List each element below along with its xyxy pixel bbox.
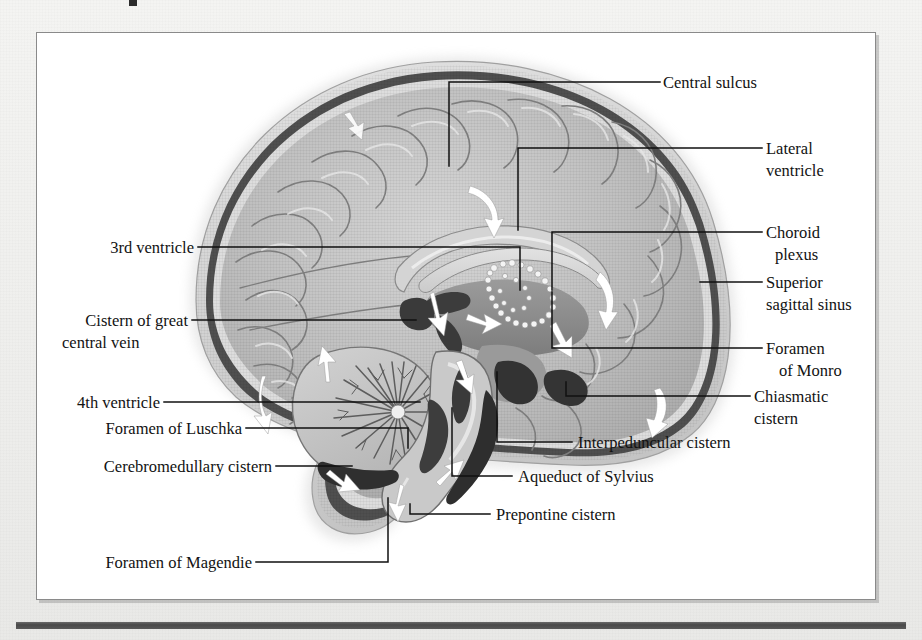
label-foramen-of-magendie: Foramen of Magendie <box>105 553 252 572</box>
label-central-sulcus: Central sulcus <box>663 73 757 92</box>
cerebellum-core <box>391 405 405 419</box>
label-choroid-plexus-l1: Choroid <box>766 223 821 242</box>
label-superior-sagittal-sinus-l2: sagittal sinus <box>766 295 852 314</box>
label-interpeduncular-cistern: Interpeduncular cistern <box>578 433 731 452</box>
brain-diagram: Central sulcus Lateral ventricle Choroid… <box>0 0 922 640</box>
label-aqueduct-of-sylvius: Aqueduct of Sylvius <box>518 467 654 486</box>
label-cistern-great-vein-l2: central vein <box>62 333 139 352</box>
label-prepontine-cistern: Prepontine cistern <box>496 505 616 524</box>
label-cistern-great-vein-l1: Cistern of great <box>85 311 188 330</box>
label-foramen-of-monro-l1: Foramen <box>766 339 825 358</box>
label-lateral-ventricle-l1: Lateral <box>766 139 813 158</box>
label-choroid-plexus-l2: plexus <box>775 245 818 264</box>
label-chiasmatic-cistern-l2: cistern <box>754 409 798 428</box>
label-chiasmatic-cistern-l1: Chiasmatic <box>754 387 828 406</box>
label-fourth-ventricle: 4th ventricle <box>77 393 160 412</box>
label-foramen-of-monro-l2: of Monro <box>779 361 842 380</box>
label-lateral-ventricle-l2: ventricle <box>766 161 824 180</box>
label-cerebromedullary-cistern: Cerebromedullary cistern <box>104 457 272 476</box>
label-superior-sagittal-sinus-l1: Superior <box>766 273 823 292</box>
label-third-ventricle: 3rd ventricle <box>110 238 194 257</box>
label-foramen-of-luschka: Foramen of Luschka <box>105 419 242 438</box>
